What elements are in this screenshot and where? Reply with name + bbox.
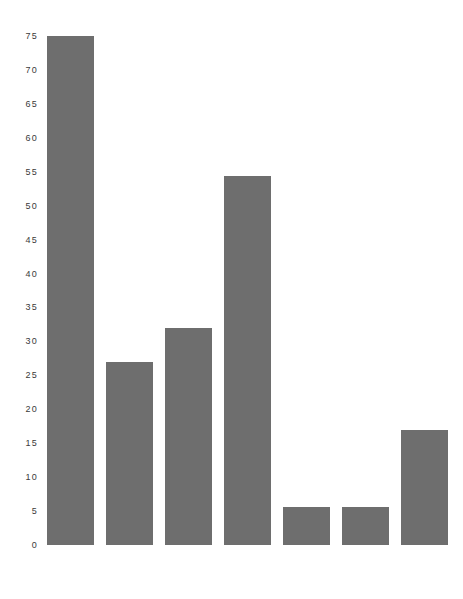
y-tick-label: 0 (32, 540, 38, 550)
bar (401, 430, 448, 545)
y-tick-label: 60 (26, 133, 38, 143)
bar (165, 328, 212, 545)
y-tick-label: 15 (26, 438, 38, 448)
bar (47, 36, 94, 545)
y-tick-label: 75 (26, 31, 38, 41)
bar (224, 176, 271, 545)
bar (283, 507, 330, 545)
bar (342, 507, 389, 545)
y-tick-label: 40 (26, 269, 38, 279)
y-tick-label: 45 (26, 235, 38, 245)
y-tick-label: 50 (26, 201, 38, 211)
y-tick-label: 25 (26, 370, 38, 380)
y-axis: 051015202530354045505560657075 (0, 0, 47, 599)
y-tick-label: 20 (26, 404, 38, 414)
y-tick-label: 30 (26, 336, 38, 346)
y-tick-label: 5 (32, 506, 38, 516)
bar-chart-figure: 051015202530354045505560657075 UNITED ST… (0, 0, 463, 599)
y-tick-label: 55 (26, 167, 38, 177)
y-tick-label: 35 (26, 302, 38, 312)
y-tick-label: 70 (26, 65, 38, 75)
plot-area: UNITED STATESCANADAAUSTRALIAFRANCEENGLAN… (47, 0, 463, 599)
y-tick-label: 10 (26, 472, 38, 482)
y-tick-label: 65 (26, 99, 38, 109)
bar (106, 362, 153, 545)
